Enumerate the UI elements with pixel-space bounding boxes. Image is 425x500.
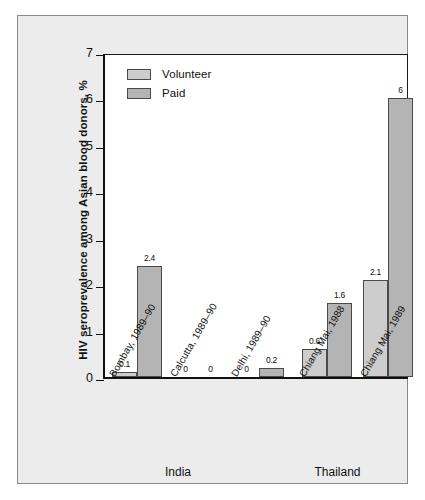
figure-container: HIV seroprevalence among Asian blood don… (0, 0, 425, 500)
y-tick-label-4: 4 (86, 185, 93, 199)
y-tick-label-1: 1 (86, 325, 93, 339)
y-tick-4 (96, 194, 104, 195)
y-tick-3 (96, 241, 104, 242)
bar-paid-2 (259, 368, 284, 377)
y-axis-title-container: HIV seroprevalence among Asian blood don… (46, 54, 66, 379)
y-tick-2 (96, 287, 104, 288)
legend-swatch-paid (127, 88, 151, 99)
y-tick-1 (96, 334, 104, 335)
bar-value-label-paid-3: 1.6 (321, 290, 358, 300)
y-tick-label-2: 2 (86, 278, 93, 292)
legend-label-volunteer: Volunteer (162, 68, 212, 80)
x-group-label-india: India (118, 465, 238, 479)
chart-panel: HIV seroprevalence among Asian blood don… (17, 15, 408, 484)
y-tick-label-5: 5 (86, 139, 93, 153)
y-tick-label-3: 3 (86, 232, 93, 246)
y-tick-label-7: 7 (86, 46, 93, 60)
x-group-label-thailand: Thailand (278, 465, 398, 479)
y-tick-0 (96, 380, 104, 381)
y-tick-5 (96, 148, 104, 149)
legend-label-paid: Paid (162, 87, 185, 99)
y-tick-6 (96, 101, 104, 102)
y-tick-7 (96, 55, 104, 56)
bar-value-label-paid-4: 6 (382, 85, 419, 95)
bar-value-label-paid-2: 0.2 (253, 355, 290, 365)
legend-item-volunteer[interactable]: Volunteer (127, 66, 267, 82)
legend-swatch-volunteer (127, 69, 151, 80)
legend: VolunteerPaid (127, 66, 267, 104)
y-tick-label-6: 6 (86, 92, 93, 106)
y-tick-label-0: 0 (86, 371, 93, 385)
bar-value-label-paid-0: 2.4 (131, 253, 168, 263)
y-axis-tick-labels: 01234567 (73, 54, 93, 379)
bar-value-label-paid-1: 0 (192, 364, 229, 374)
legend-item-paid[interactable]: Paid (127, 85, 267, 101)
